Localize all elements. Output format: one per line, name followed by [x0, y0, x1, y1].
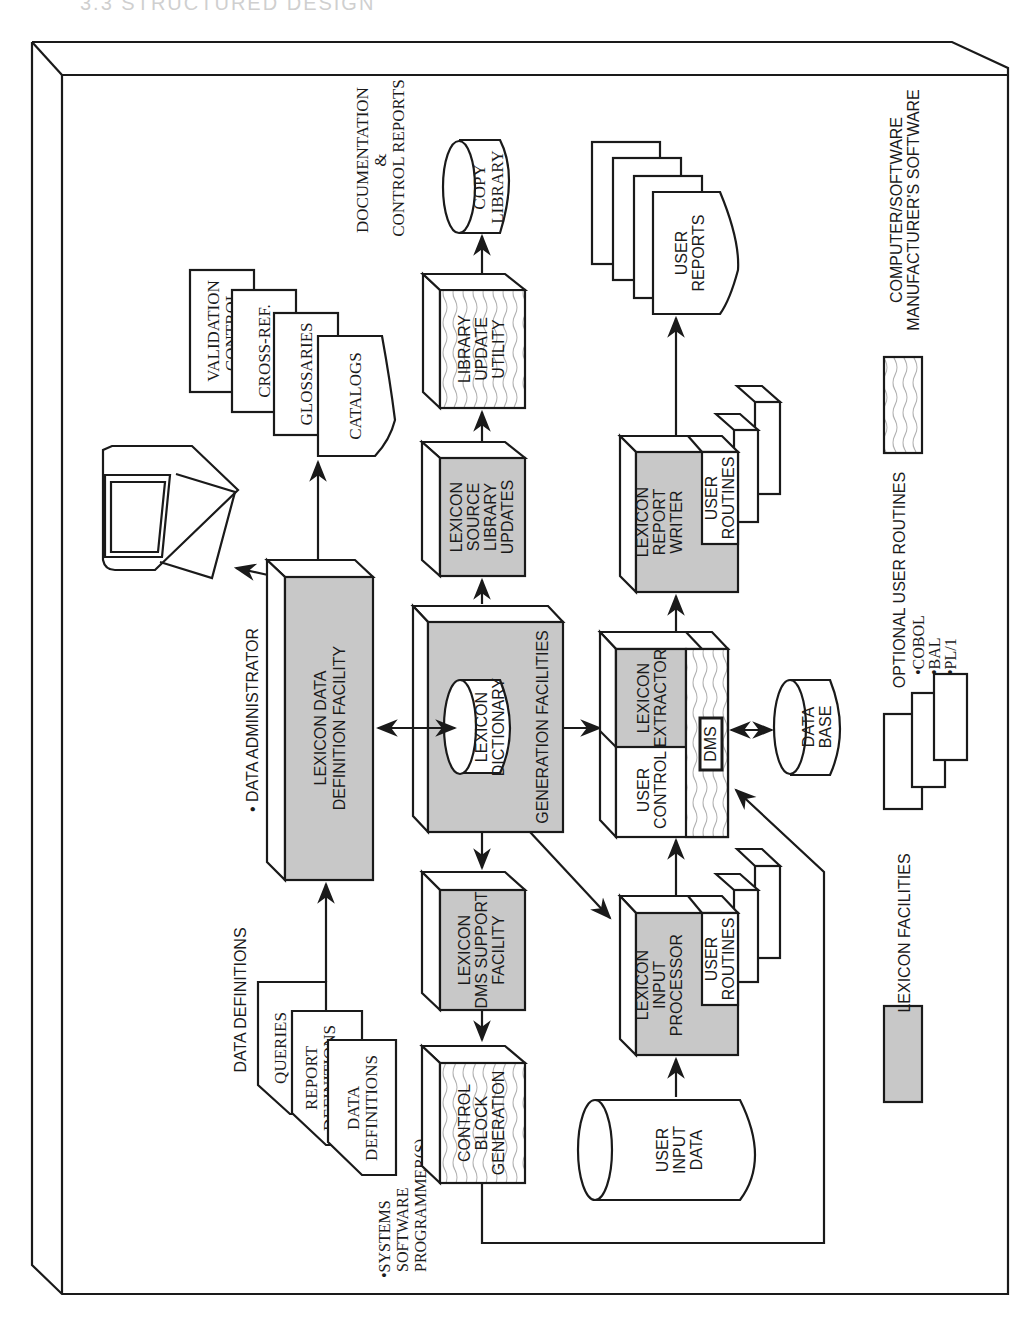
catalogs-doc: CATALOGS [318, 336, 395, 456]
legend-lang-pl1: •PL/1 [942, 638, 959, 675]
svg-text:GLOSSARIES: GLOSSARIES [297, 323, 316, 426]
svg-text:CATALOGS: CATALOGS [346, 352, 365, 439]
svg-text:CROSS-REF.: CROSS-REF. [255, 304, 274, 398]
control-block-generation-box: CONTROLBLOCKGENERATION [422, 1046, 525, 1183]
legend-lang-bal: •BAL [926, 637, 943, 675]
extractor-user-control-box: LEXICONEXTRACTOR USERCONTROL DMS [600, 632, 728, 837]
lexicon-data-definition-facility-box: LEXICON DATADEFINITION FACILITY [267, 560, 373, 880]
data-definitions-label: DATA DEFINITIONS [232, 927, 249, 1072]
legend-computer-software: COMPUTER/SOFTWAREMANUFACTURER'S SOFTWARE [888, 89, 922, 331]
svg-text:LEXICONREPORTWRITER: LEXICONREPORTWRITER [634, 487, 685, 557]
legend-optional-user-routines: OPTIONAL USER ROUTINES [891, 472, 908, 688]
copy-library-cylinder: COPYLIBRARY [443, 140, 509, 233]
arrow-to-terminal [236, 568, 268, 575]
documentation-label: DOCUMENTATION & CONTROL REPORTS [353, 79, 408, 237]
user-input-data-cylinder: USERINPUTDATA [578, 1100, 755, 1200]
svg-text:LIBRARYUPDATEUTILITY: LIBRARYUPDATEUTILITY [456, 315, 507, 384]
legend: LEXICON FACILITIES OPTIONAL USER ROUTINE… [884, 89, 967, 1102]
svg-text:LEXICONEXTRACTOR: LEXICONEXTRACTOR [635, 649, 669, 747]
svg-text:LEXICONSOURCELIBRARYUPDATES: LEXICONSOURCELIBRARYUPDATES [448, 480, 516, 554]
data-base-cylinder: DATABASE [774, 680, 840, 775]
legend-software-swatch [884, 357, 922, 453]
data-administrator-label: • DATA ADMINISTRATOR [244, 628, 261, 812]
lexicon-dms-support-facility-box: LEXICONDMS SUPPORTFACILITY [422, 872, 525, 1010]
lexicon-source-library-updates-box: LEXICONSOURCELIBRARYUPDATES [422, 442, 525, 576]
lexicon-dictionary-cylinder: LEXICONDICTIONARY [444, 677, 510, 776]
svg-text:LEXICONDICTIONARY: LEXICONDICTIONARY [473, 677, 507, 776]
lexicon-report-writer-box: LEXICONREPORTWRITER USERROUTINES [620, 436, 738, 592]
svg-text:GENERATION FACILITIES: GENERATION FACILITIES [534, 630, 551, 824]
lexicon-system-diagram: VALIDATIONCONTROL CROSS-REF. GLOSSARIES … [0, 0, 1012, 1332]
terminal-icon [103, 446, 238, 578]
legend-lexicon-swatch [884, 1006, 922, 1102]
arrow-to-input-processor [530, 832, 610, 918]
legend-lang-cobol: •COBOL [910, 615, 927, 675]
svg-text:USERINPUTDATA: USERINPUTDATA [654, 1126, 705, 1174]
data-definitions-doc: DATADEFINITIONS [328, 1040, 396, 1175]
svg-text:QUERIES: QUERIES [271, 1012, 290, 1084]
dms-label: DMS [702, 726, 719, 762]
library-update-utility-box: LIBRARYUPDATEUTILITY [423, 274, 525, 408]
legend-lexicon-facilities: LEXICON FACILITIES [896, 853, 913, 1012]
lexicon-input-processor-box: LEXICONINPUTPROCESSOR USERROUTINES [620, 896, 738, 1055]
svg-text:DATABASE: DATABASE [800, 706, 834, 749]
user-reports-stack: USERREPORTS [592, 142, 738, 314]
